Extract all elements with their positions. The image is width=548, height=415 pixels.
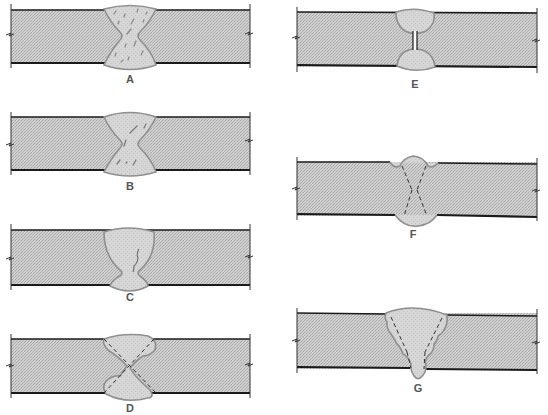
panel-g: G bbox=[292, 308, 540, 394]
plate-top-edge bbox=[438, 163, 537, 164]
panel-a: A bbox=[6, 4, 253, 85]
panel-c: C bbox=[6, 224, 253, 303]
plate-top-edge bbox=[447, 315, 537, 316]
panel-d: D bbox=[6, 334, 253, 414]
weld-diagram: A B C bbox=[0, 0, 548, 415]
panel-e: E bbox=[292, 7, 540, 90]
weld-bottom-bead bbox=[395, 215, 437, 226]
panel-b: B bbox=[6, 112, 253, 192]
panel-label: F bbox=[410, 228, 417, 240]
panel-label: B bbox=[126, 180, 134, 192]
weld-bead bbox=[104, 228, 154, 291]
plate-bottom-edge bbox=[426, 369, 537, 370]
panel-f: F bbox=[292, 156, 540, 240]
panel-label: A bbox=[126, 73, 134, 85]
plate-bottom-edge bbox=[297, 214, 395, 215]
panel-label: G bbox=[414, 382, 423, 394]
plate-top-edge bbox=[297, 313, 386, 314]
plate-bottom-edge bbox=[297, 367, 410, 368]
panel-label: E bbox=[411, 78, 418, 90]
panel-label: D bbox=[126, 402, 134, 414]
panel-label: C bbox=[126, 291, 134, 303]
